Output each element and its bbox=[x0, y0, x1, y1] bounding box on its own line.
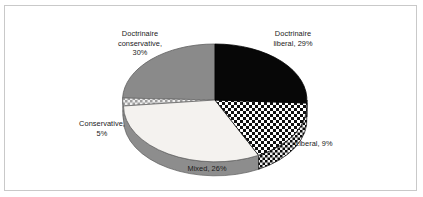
pie-chart-plot: Doctrinaire conservative, 30% Doctrinair… bbox=[0, 0, 423, 197]
slice-label-doctrinaire-liberal: Doctrinaire liberal, 29% bbox=[243, 29, 343, 48]
slice-label-conservative: Conservative, 5% bbox=[52, 119, 152, 138]
slice-doctrinaire-liberal bbox=[215, 44, 307, 103]
slice-label-liberal: Liberal, 9% bbox=[295, 139, 385, 149]
pie-top-faces bbox=[123, 44, 307, 162]
slice-label-doctrinaire-conservative: Doctrinaire conservative, 30% bbox=[85, 29, 195, 58]
slice-label-mixed: Mixed, 26% bbox=[152, 164, 262, 174]
chart-screenshot: POLITICAL POSITIONING OF THE ELECTORATE bbox=[0, 0, 423, 197]
